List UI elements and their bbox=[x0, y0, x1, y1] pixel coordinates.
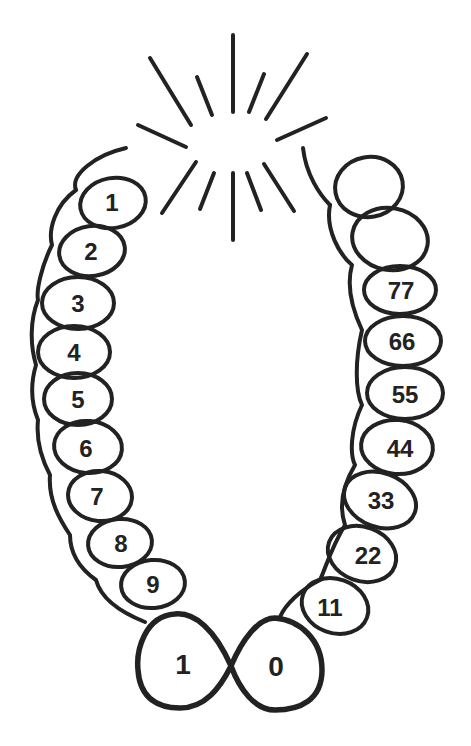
loop-label: 22 bbox=[355, 542, 382, 569]
left-loop-labels: 1 2 3 4 5 6 7 8 9 bbox=[67, 189, 159, 598]
loop-label: 11 bbox=[317, 594, 342, 621]
loop-label: 3 bbox=[71, 290, 84, 317]
loop-label: 1 bbox=[175, 649, 191, 680]
loop-label: 8 bbox=[114, 530, 127, 557]
loop-label: 33 bbox=[368, 487, 395, 514]
loop-label: 7 bbox=[90, 483, 103, 510]
right-loop-chain bbox=[280, 148, 443, 643]
diagram-canvas: 1 2 3 4 5 6 7 8 9 1 0 77 66 55 44 33 22 bbox=[0, 0, 471, 746]
loop-label: 9 bbox=[146, 571, 159, 598]
left-loop-chain bbox=[32, 148, 187, 622]
loop-label: 55 bbox=[392, 381, 419, 408]
loop-label: 6 bbox=[79, 435, 92, 462]
loop-label: 5 bbox=[71, 386, 84, 413]
loop-label: 44 bbox=[387, 435, 414, 462]
spiral-diagram: 1 2 3 4 5 6 7 8 9 1 0 77 66 55 44 33 22 bbox=[0, 0, 471, 746]
loop-label: 1 bbox=[105, 189, 118, 216]
bottom-figure-eight bbox=[138, 614, 322, 710]
loop-label: 66 bbox=[389, 328, 416, 355]
sunburst-icon bbox=[138, 35, 326, 240]
loop-label: 77 bbox=[388, 277, 415, 304]
loop-label: 2 bbox=[84, 238, 97, 265]
loop-label: 0 bbox=[268, 651, 284, 682]
loop-label: 4 bbox=[67, 339, 81, 366]
